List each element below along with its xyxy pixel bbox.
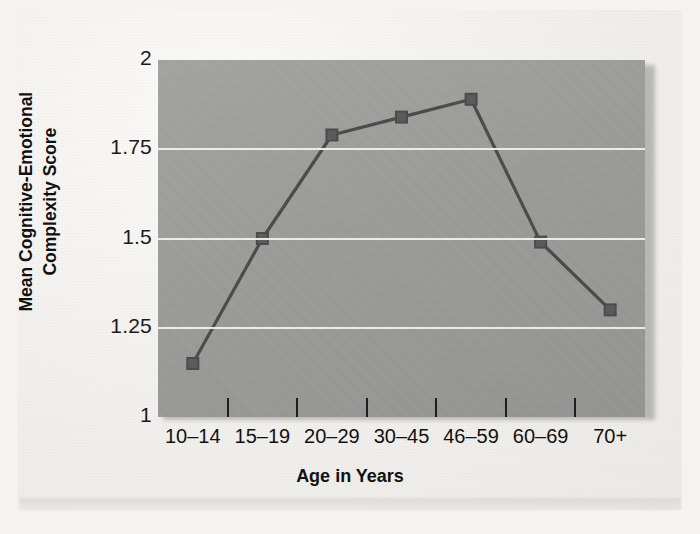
x-axis-title: Age in Years [0,466,700,487]
x-axis-tick-label: 15–19 [235,425,291,448]
y-axis-title-line-2: Complexity Score [39,52,63,352]
y-axis-tick-label: 1 [140,403,152,427]
x-axis-tick-labels: 10–1415–1920–2930–4546–5960–6970+ [150,425,660,455]
x-axis-tick-label: 10–14 [165,425,221,448]
y-axis-title-line-1: Mean Cognitive-Emotional [15,52,39,352]
x-axis-tick [366,398,368,417]
data-point-marker [396,112,407,123]
x-axis-tick [505,398,507,417]
data-line [193,99,610,363]
gridline [158,327,645,329]
data-point-marker [326,130,337,141]
x-axis-tick-label: 70+ [593,425,627,448]
x-axis-tick [435,398,437,417]
y-axis-tick-label: 1.75 [110,135,152,159]
gridline [158,148,645,150]
y-axis-tick-label: 2 [140,46,152,70]
x-axis-ticks [158,398,645,418]
x-axis-tick [296,398,298,417]
data-point-marker [187,358,198,369]
gridline [158,238,645,240]
x-axis-tick-label: 30–45 [374,425,430,448]
data-point-marker [605,304,616,315]
y-axis-title: Mean Cognitive-Emotional Complexity Scor… [15,52,62,352]
x-axis-tick-label: 60–69 [513,425,569,448]
x-axis-tick-label: 20–29 [304,425,360,448]
y-axis-tick-label: 1.5 [122,225,152,249]
data-point-marker [466,94,477,105]
x-axis-tick [227,398,229,417]
plot-area [158,60,645,417]
x-axis-tick-label: 46–59 [443,425,499,448]
y-axis-tick-label: 1.25 [110,314,152,338]
x-axis-tick [574,398,576,417]
y-axis-tick-labels: 11.251.51.752 [62,0,152,534]
chart-figure: Mean Cognitive-Emotional Complexity Scor… [0,0,700,534]
